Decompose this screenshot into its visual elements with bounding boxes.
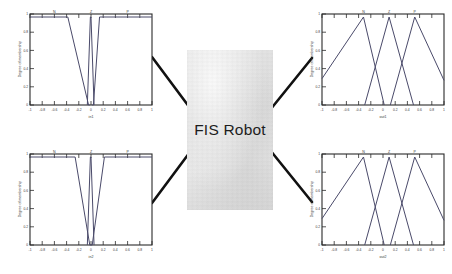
- svg-text:0: 0: [90, 108, 92, 112]
- svg-text:Z: Z: [90, 150, 93, 154]
- svg-text:0.8: 0.8: [23, 30, 28, 34]
- svg-text:-1: -1: [321, 108, 324, 112]
- svg-text:0.6: 0.6: [23, 49, 28, 53]
- plot-input-2-ylabel: Degree of membership: [18, 181, 22, 218]
- svg-text:1: 1: [318, 12, 320, 16]
- svg-text:1: 1: [26, 12, 28, 16]
- plot-output-2-ylabel: Degree of membership: [310, 181, 314, 218]
- svg-text:0: 0: [26, 103, 28, 107]
- plot-output-1-frame: [322, 14, 444, 105]
- svg-text:0: 0: [382, 108, 384, 112]
- svg-text:0: 0: [318, 103, 320, 107]
- svg-text:0.2: 0.2: [101, 248, 106, 252]
- svg-text:-0.4: -0.4: [64, 108, 70, 112]
- svg-text:0.8: 0.8: [23, 170, 28, 174]
- svg-text:1: 1: [443, 108, 445, 112]
- svg-text:0.8: 0.8: [430, 248, 435, 252]
- svg-text:N: N: [53, 10, 56, 14]
- plot-input-2: -1-0.8-0.6 -0.4-0.20 0.20.40.6 0.81 00.2…: [8, 146, 160, 268]
- svg-text:1: 1: [318, 152, 320, 156]
- svg-text:0.4: 0.4: [113, 108, 118, 112]
- svg-text:0.6: 0.6: [125, 108, 130, 112]
- svg-text:Z: Z: [90, 10, 93, 14]
- svg-text:-0.2: -0.2: [368, 248, 374, 252]
- svg-text:0.2: 0.2: [23, 85, 28, 89]
- svg-text:0.4: 0.4: [315, 207, 320, 211]
- svg-text:P: P: [126, 10, 129, 14]
- plot-input-1-yticklabels: 00.20.4 0.60.81: [23, 12, 28, 107]
- plot-input-1-xticklabels: -1-0.8-0.6 -0.4-0.20 0.20.40.6 0.81: [29, 108, 154, 112]
- plot-input-1: -1-0.8-0.6 -0.4-0.20 0.20.40.6 0.81 00.2…: [8, 6, 160, 128]
- svg-text:-0.2: -0.2: [368, 108, 374, 112]
- svg-text:-0.8: -0.8: [331, 248, 337, 252]
- svg-text:0.8: 0.8: [315, 170, 320, 174]
- svg-text:-0.8: -0.8: [331, 108, 337, 112]
- svg-text:-0.4: -0.4: [356, 108, 362, 112]
- svg-text:0.6: 0.6: [417, 108, 422, 112]
- svg-text:0.6: 0.6: [23, 189, 28, 193]
- svg-text:-0.2: -0.2: [76, 108, 82, 112]
- svg-text:N: N: [53, 150, 56, 154]
- svg-text:1: 1: [26, 152, 28, 156]
- svg-text:0.6: 0.6: [125, 248, 130, 252]
- plot-output-2: -1-0.8-0.6 -0.4-0.20 0.20.40.6 0.81 00.2…: [300, 146, 452, 268]
- svg-text:-0.6: -0.6: [52, 248, 58, 252]
- svg-text:0.8: 0.8: [138, 108, 143, 112]
- svg-text:0.4: 0.4: [405, 248, 410, 252]
- svg-text:0.6: 0.6: [417, 248, 422, 252]
- svg-text:-1: -1: [29, 248, 32, 252]
- svg-text:-1: -1: [321, 248, 324, 252]
- svg-text:1: 1: [151, 248, 153, 252]
- plot-output-2-xlabel: out2: [380, 255, 387, 259]
- svg-text:0.2: 0.2: [315, 85, 320, 89]
- svg-text:0.2: 0.2: [393, 108, 398, 112]
- svg-text:-0.4: -0.4: [64, 248, 70, 252]
- plot-input-1-xlabel: in1: [89, 115, 94, 119]
- plot-output-1-ylabel: Degree of membership: [310, 41, 314, 78]
- svg-text:0.8: 0.8: [430, 108, 435, 112]
- svg-text:0.8: 0.8: [138, 248, 143, 252]
- svg-text:-0.6: -0.6: [52, 108, 58, 112]
- svg-text:-0.8: -0.8: [39, 248, 45, 252]
- svg-text:-0.6: -0.6: [344, 248, 350, 252]
- svg-text:0: 0: [382, 248, 384, 252]
- plot-output-1-xlabel: out1: [380, 115, 387, 119]
- svg-text:0: 0: [318, 243, 320, 247]
- fis-robot-label: FIS Robot: [194, 121, 266, 139]
- svg-text:P: P: [413, 10, 416, 14]
- svg-text:0.8: 0.8: [315, 30, 320, 34]
- plot-input-2-mflabels: NZP: [53, 150, 129, 154]
- svg-text:1: 1: [443, 248, 445, 252]
- svg-text:Z: Z: [388, 150, 391, 154]
- svg-text:0.2: 0.2: [101, 108, 106, 112]
- plot-output-2-frame: [322, 154, 444, 245]
- plot-output-2-yticklabels: 00.20.4 0.60.81: [315, 152, 320, 247]
- svg-text:0: 0: [26, 243, 28, 247]
- svg-text:-0.6: -0.6: [344, 108, 350, 112]
- svg-text:P: P: [413, 150, 416, 154]
- plot-input-1-ylabel: Degree of membership: [18, 41, 22, 78]
- svg-text:0.6: 0.6: [315, 49, 320, 53]
- svg-text:0.2: 0.2: [393, 248, 398, 252]
- svg-text:0.2: 0.2: [315, 225, 320, 229]
- plot-output-1-xticklabels: -1-0.8-0.6 -0.4-0.20 0.20.40.6 0.81: [321, 108, 446, 112]
- plot-input-2-xlabel: in2: [89, 255, 94, 259]
- svg-text:-1: -1: [29, 108, 32, 112]
- svg-text:0.4: 0.4: [23, 67, 28, 71]
- plot-output-1: -1-0.8-0.6 -0.4-0.20 0.20.40.6 0.81 00.2…: [300, 6, 452, 128]
- fis-robot-block: FIS Robot: [187, 50, 273, 210]
- svg-text:1: 1: [151, 108, 153, 112]
- plot-input-2-yticklabels: 00.20.4 0.60.81: [23, 152, 28, 247]
- plot-input-1-mflabels: NZP: [53, 10, 129, 14]
- svg-text:0.6: 0.6: [315, 189, 320, 193]
- svg-text:0.4: 0.4: [405, 108, 410, 112]
- plot-output-1-mflabels: NZP: [362, 10, 416, 14]
- svg-text:-0.8: -0.8: [39, 108, 45, 112]
- plot-output-2-mflabels: NZP: [362, 150, 416, 154]
- svg-text:N: N: [362, 10, 365, 14]
- svg-text:0.2: 0.2: [23, 225, 28, 229]
- svg-text:-0.4: -0.4: [356, 248, 362, 252]
- plot-output-2-xticklabels: -1-0.8-0.6 -0.4-0.20 0.20.40.6 0.81: [321, 248, 446, 252]
- svg-text:0: 0: [90, 248, 92, 252]
- svg-text:-0.2: -0.2: [76, 248, 82, 252]
